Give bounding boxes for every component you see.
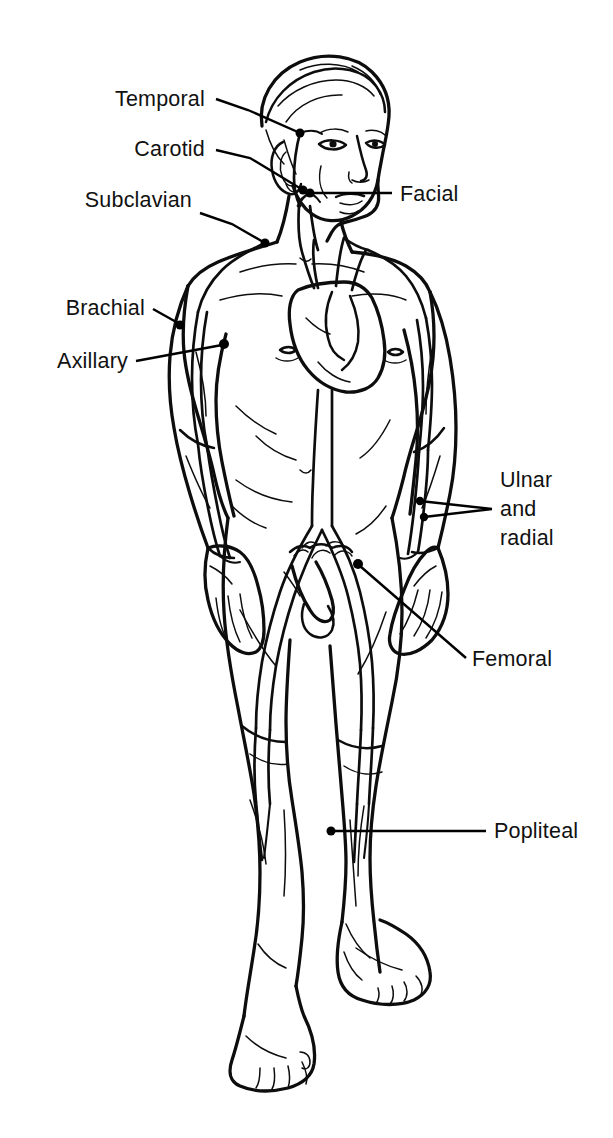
pressure-point-ulnar-radial-point-2[interactable]	[420, 513, 428, 521]
label-femoral: Femoral	[472, 647, 552, 671]
label-ulnar-radial-line-1: and	[500, 497, 536, 521]
pressure-point-subclavian-point[interactable]	[261, 239, 270, 248]
label-popliteal: Popliteal	[494, 819, 578, 843]
label-femoral-line-0: Femoral	[472, 647, 552, 671]
pressure-point-axillary-point[interactable]	[219, 339, 229, 349]
label-subclavian-line-0: Subclavian	[85, 188, 192, 212]
label-ulnar-radial-line-2: radial	[500, 526, 554, 550]
label-brachial: Brachial	[66, 296, 145, 320]
label-axillary-line-0: Axillary	[57, 349, 128, 373]
label-facial: Facial	[400, 182, 459, 206]
label-brachial-line-0: Brachial	[66, 296, 145, 320]
label-temporal-line-0: Temporal	[115, 87, 205, 111]
label-facial-line-0: Facial	[400, 182, 459, 206]
label-carotid: Carotid	[134, 137, 205, 161]
right-popliteal-artery-2	[269, 730, 271, 804]
diagram-background	[0, 0, 613, 1138]
pressure-point-ulnar-radial-point[interactable]	[416, 497, 424, 505]
pressure-point-facial-point[interactable]	[306, 189, 315, 198]
anatomy-figure-root: TemporalCarotidFacialSubclavianBrachialA…	[0, 0, 613, 1138]
label-popliteal-line-0: Popliteal	[494, 819, 578, 843]
pressure-point-temporal-point[interactable]	[296, 129, 305, 138]
pressure-point-popliteal-point[interactable]	[327, 827, 336, 836]
label-axillary: Axillary	[57, 349, 128, 373]
pupil-far	[372, 141, 378, 147]
pressure-point-brachial-point[interactable]	[176, 321, 185, 330]
pupil-near	[329, 140, 336, 147]
label-temporal: Temporal	[115, 87, 205, 111]
arterial-pressure-point-diagram: TemporalCarotidFacialSubclavianBrachialA…	[0, 0, 613, 1138]
pressure-point-femoral-point[interactable]	[353, 559, 363, 569]
right-popliteal-artery	[255, 728, 257, 802]
label-ulnar-radial-line-0: Ulnar	[500, 468, 552, 492]
label-carotid-line-0: Carotid	[134, 137, 205, 161]
label-subclavian: Subclavian	[85, 188, 192, 212]
